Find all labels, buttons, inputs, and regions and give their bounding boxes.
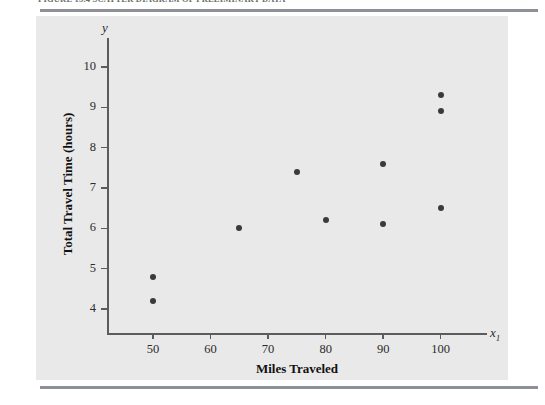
data-point — [236, 225, 242, 231]
x-tick-60 — [210, 333, 211, 339]
x-tick-label-100: 100 — [421, 342, 461, 357]
y-tick-4 — [101, 308, 107, 309]
x-tick-label-70: 70 — [248, 342, 288, 357]
y-tick-label-10: 10 — [52, 59, 96, 74]
data-point — [294, 169, 300, 175]
x-axis-line — [107, 333, 487, 335]
data-point — [438, 92, 444, 98]
data-point — [438, 205, 444, 211]
x-tick-100 — [440, 333, 441, 339]
plot-panel: 45678910 5060708090100 y x1 Total Travel… — [36, 16, 508, 380]
data-point — [380, 221, 386, 227]
y-axis-line — [107, 38, 109, 335]
y-tick-label-4: 4 — [52, 301, 96, 316]
y-tick-8 — [101, 147, 107, 148]
x-tick-70 — [267, 333, 268, 339]
x-tick-label-60: 60 — [191, 342, 231, 357]
data-point — [150, 274, 156, 280]
y-tick-5 — [101, 268, 107, 269]
x-tick-label-80: 80 — [306, 342, 346, 357]
y-tick-9 — [101, 107, 107, 108]
data-point — [150, 298, 156, 304]
data-point — [438, 108, 444, 114]
x-axis-symbol: x1 — [490, 325, 500, 343]
y-tick-6 — [101, 228, 107, 229]
data-point — [380, 161, 386, 167]
data-point — [323, 217, 329, 223]
y-tick-7 — [101, 187, 107, 188]
x-axis-title: Miles Traveled — [107, 361, 487, 377]
y-axis-symbol: y — [102, 20, 108, 36]
x-tick-label-90: 90 — [363, 342, 403, 357]
x-tick-label-50: 50 — [133, 342, 173, 357]
y-axis-title: Total Travel Time (hours) — [60, 74, 76, 294]
top-rule — [40, 9, 538, 12]
x-tick-50 — [152, 333, 153, 339]
bottom-rule — [40, 386, 538, 389]
x-tick-90 — [382, 333, 383, 339]
figure-root: FIGURE 15.4 SCATTER DIAGRAM OF PRELIMINA… — [0, 0, 545, 405]
x-tick-80 — [325, 333, 326, 339]
y-tick-10 — [101, 66, 107, 67]
figure-caption: FIGURE 15.4 SCATTER DIAGRAM OF PRELIMINA… — [38, 0, 538, 3]
